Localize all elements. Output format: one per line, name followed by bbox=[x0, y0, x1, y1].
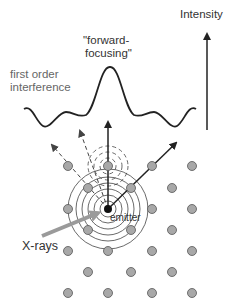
forward-focusing-label-2: focusing" bbox=[85, 47, 132, 60]
atom bbox=[188, 247, 197, 256]
atom bbox=[168, 268, 177, 277]
atom bbox=[127, 184, 136, 193]
atom bbox=[168, 184, 177, 193]
first-order-arrow-mid bbox=[80, 131, 108, 209]
atom bbox=[64, 205, 73, 214]
xrays-label: X-rays bbox=[22, 240, 58, 253]
atom bbox=[64, 247, 73, 256]
atom bbox=[168, 226, 177, 235]
forward-focusing-label-1: "forward- bbox=[83, 34, 129, 47]
atom-lattice bbox=[64, 162, 197, 298]
atom bbox=[127, 226, 136, 235]
atom bbox=[148, 205, 157, 214]
intensity-label: Intensity bbox=[180, 8, 223, 21]
atom bbox=[64, 162, 73, 171]
atom bbox=[84, 226, 93, 235]
atom bbox=[104, 162, 113, 171]
first-order-label-1: first order bbox=[10, 68, 59, 81]
atom bbox=[104, 289, 113, 298]
atom bbox=[188, 289, 197, 298]
atom bbox=[84, 184, 93, 193]
atom bbox=[64, 289, 73, 298]
atom bbox=[148, 247, 157, 256]
first-order-label-2: interference bbox=[10, 81, 71, 94]
atom bbox=[127, 268, 136, 277]
atom bbox=[188, 162, 197, 171]
atom bbox=[148, 162, 157, 171]
atom bbox=[104, 247, 113, 256]
atom bbox=[148, 289, 157, 298]
atom bbox=[84, 268, 93, 277]
atom bbox=[188, 205, 197, 214]
emitter-label: emitter bbox=[110, 211, 141, 224]
